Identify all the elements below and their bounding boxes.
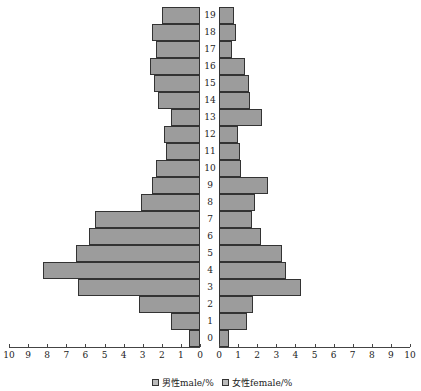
bar-female-10 bbox=[219, 160, 241, 177]
bar-male-11 bbox=[166, 143, 200, 160]
bar-male-1 bbox=[171, 313, 200, 330]
row-label: 6 bbox=[201, 228, 219, 245]
bar-female-17 bbox=[219, 41, 232, 58]
tick-label-male: 6 bbox=[77, 350, 93, 360]
bar-female-2 bbox=[219, 296, 253, 313]
tick-label-female: 0 bbox=[211, 350, 227, 360]
tick-label-male: 1 bbox=[173, 350, 189, 360]
tick-label-male: 5 bbox=[97, 350, 113, 360]
bar-male-5 bbox=[76, 245, 200, 262]
bar-female-5 bbox=[219, 245, 282, 262]
bar-male-9 bbox=[152, 177, 200, 194]
row-label: 1 bbox=[201, 313, 219, 330]
row-label: 7 bbox=[201, 211, 219, 228]
bar-female-14 bbox=[219, 92, 250, 109]
bar-female-19 bbox=[219, 7, 234, 24]
bar-female-16 bbox=[219, 58, 245, 75]
tick-mark bbox=[143, 344, 144, 347]
tick-mark bbox=[200, 344, 201, 347]
tick-label-male: 7 bbox=[58, 350, 74, 360]
row-label: 18 bbox=[201, 24, 219, 41]
bar-male-8 bbox=[141, 194, 200, 211]
tick-mark bbox=[124, 344, 125, 347]
bar-female-9 bbox=[219, 177, 268, 194]
row-label: 3 bbox=[201, 279, 219, 296]
row-label: 13 bbox=[201, 109, 219, 126]
tick-label-female: 8 bbox=[364, 350, 380, 360]
row-label: 0 bbox=[201, 330, 219, 347]
x-axis-female bbox=[219, 347, 410, 348]
bar-female-6 bbox=[219, 228, 261, 245]
bar-female-13 bbox=[219, 109, 262, 126]
bar-male-18 bbox=[152, 24, 200, 41]
bar-male-15 bbox=[154, 75, 200, 92]
legend-item-male: 男性male/% bbox=[152, 376, 214, 389]
tick-mark bbox=[391, 344, 392, 347]
bar-male-4 bbox=[43, 262, 200, 279]
row-label: 2 bbox=[201, 296, 219, 313]
bar-female-1 bbox=[219, 313, 247, 330]
tick-label-male: 9 bbox=[20, 350, 36, 360]
tick-mark bbox=[47, 344, 48, 347]
tick-mark bbox=[276, 344, 277, 347]
bar-male-0 bbox=[189, 330, 200, 347]
tick-mark bbox=[66, 344, 67, 347]
tick-label-male: 8 bbox=[39, 350, 55, 360]
tick-label-male: 2 bbox=[154, 350, 170, 360]
tick-mark bbox=[334, 344, 335, 347]
legend-label-female: 女性female/% bbox=[232, 376, 292, 389]
row-label: 10 bbox=[201, 160, 219, 177]
tick-mark bbox=[85, 344, 86, 347]
row-label: 5 bbox=[201, 245, 219, 262]
legend-item-female: 女性female/% bbox=[222, 376, 292, 389]
tick-label-female: 10 bbox=[402, 350, 418, 360]
bar-female-18 bbox=[219, 24, 236, 41]
bar-male-13 bbox=[171, 109, 200, 126]
tick-mark bbox=[315, 344, 316, 347]
bar-male-16 bbox=[150, 58, 200, 75]
tick-label-female: 6 bbox=[326, 350, 342, 360]
x-axis-male bbox=[9, 347, 200, 348]
population-pyramid-chart: 0123456789101112131415161718191098765432… bbox=[0, 0, 421, 391]
bar-male-10 bbox=[156, 160, 200, 177]
bar-male-3 bbox=[78, 279, 200, 296]
tick-label-male: 3 bbox=[135, 350, 151, 360]
tick-mark bbox=[28, 344, 29, 347]
bar-female-4 bbox=[219, 262, 286, 279]
row-label: 14 bbox=[201, 92, 219, 109]
bar-male-6 bbox=[89, 228, 200, 245]
bar-male-7 bbox=[95, 211, 200, 228]
bar-female-8 bbox=[219, 194, 255, 211]
tick-label-male: 10 bbox=[1, 350, 17, 360]
legend-swatch-female-icon bbox=[222, 379, 229, 386]
row-label: 15 bbox=[201, 75, 219, 92]
tick-mark bbox=[181, 344, 182, 347]
row-label: 4 bbox=[201, 262, 219, 279]
bar-female-3 bbox=[219, 279, 301, 296]
tick-mark bbox=[162, 344, 163, 347]
legend-label-male: 男性male/% bbox=[162, 376, 214, 389]
tick-mark bbox=[238, 344, 239, 347]
tick-mark bbox=[372, 344, 373, 347]
tick-mark bbox=[295, 344, 296, 347]
tick-label-female: 2 bbox=[249, 350, 265, 360]
row-label: 17 bbox=[201, 41, 219, 58]
bar-female-0 bbox=[219, 330, 229, 347]
row-label: 9 bbox=[201, 177, 219, 194]
tick-label-female: 5 bbox=[307, 350, 323, 360]
bar-female-7 bbox=[219, 211, 252, 228]
tick-label-female: 4 bbox=[287, 350, 303, 360]
tick-mark bbox=[219, 344, 220, 347]
legend-swatch-male-icon bbox=[152, 379, 159, 386]
bar-female-15 bbox=[219, 75, 249, 92]
tick-mark bbox=[353, 344, 354, 347]
bar-female-11 bbox=[219, 143, 240, 160]
tick-mark bbox=[410, 344, 411, 347]
tick-label-female: 7 bbox=[345, 350, 361, 360]
bar-male-14 bbox=[158, 92, 200, 109]
tick-label-male: 0 bbox=[192, 350, 208, 360]
row-label: 11 bbox=[201, 143, 219, 160]
tick-label-female: 9 bbox=[383, 350, 399, 360]
tick-mark bbox=[257, 344, 258, 347]
bar-male-17 bbox=[156, 41, 200, 58]
